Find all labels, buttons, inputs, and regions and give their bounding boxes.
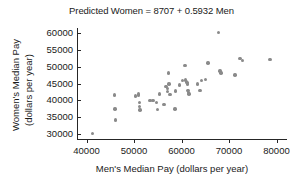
data-point [162, 103, 165, 106]
data-point [198, 89, 201, 92]
x-axis-tick-label: 80000 [247, 145, 304, 156]
data-point [174, 89, 177, 92]
data-point [138, 108, 141, 111]
data-point [114, 118, 117, 121]
plot-area [77, 28, 286, 140]
x-axis-label: Men's Median Pay (dollars per year) [47, 163, 297, 174]
data-point [158, 92, 161, 95]
y-axis-tick-label: 35000 [33, 111, 73, 122]
data-point [186, 82, 189, 85]
data-point [167, 82, 170, 85]
data-point [113, 107, 116, 110]
data-point [206, 61, 209, 64]
y-axis-tick-label: 45000 [33, 78, 73, 89]
y-axis-tick-label: 30000 [33, 128, 73, 139]
data-point [196, 82, 199, 85]
y-axis-tick-label: 60000 [33, 27, 73, 38]
y-axis-tick-label: 50000 [33, 61, 73, 72]
data-point [268, 58, 271, 61]
data-point [113, 93, 116, 96]
y-axis-label-line1: Women's Median Pay [10, 39, 21, 131]
data-point [219, 71, 222, 74]
scatter-plot-figure: Predicted Women = 8707 + 0.5932 Men 3000… [0, 0, 303, 183]
data-point [183, 64, 186, 67]
data-point [173, 107, 176, 110]
y-axis-tick-label: 55000 [33, 44, 73, 55]
data-point [187, 92, 190, 95]
data-point [167, 71, 170, 74]
data-point [155, 101, 158, 104]
data-point [168, 93, 171, 96]
chart-title: Predicted Women = 8707 + 0.5932 Men [0, 5, 303, 16]
y-axis-tick-label: 40000 [33, 94, 73, 105]
y-axis-label-line2: (dollars per year) [23, 54, 34, 126]
data-point [233, 73, 236, 76]
data-point [178, 83, 181, 86]
data-point [204, 78, 207, 81]
